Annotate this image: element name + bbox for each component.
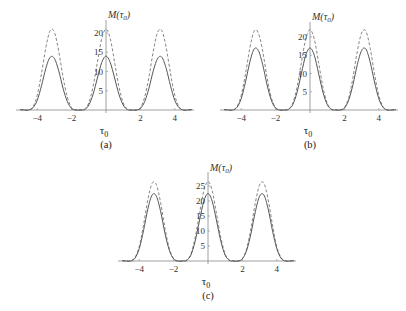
y-tick-labels: 510152025	[196, 181, 206, 251]
panel-c: −4−224 510152025 M(τ0) τ0 (c)	[118, 162, 296, 302]
y-tick-label: 10	[94, 67, 104, 77]
x-tick-label: −4	[134, 264, 144, 274]
y-tick-label: 20	[196, 196, 206, 206]
x-tick-label: −4	[32, 113, 42, 123]
x-tick-label: 4	[377, 113, 382, 123]
y-tick-label: 5	[303, 87, 308, 97]
x-tick-labels: −4−224	[32, 113, 177, 123]
x-tick-label: −4	[236, 113, 246, 123]
x-tick-labels: −4−224	[134, 264, 279, 274]
x-tick-label: 4	[275, 264, 280, 274]
panel-a: −4−224 5101520 M(τ0) τ0 (a)	[16, 9, 194, 151]
x-tick-labels: −4−224	[236, 113, 381, 123]
figure: −4−224 5101520 M(τ0) τ0 (a) −4−224 51015…	[0, 0, 406, 311]
y-tick-label: 10	[298, 69, 308, 79]
y-tick-label: 10	[196, 226, 206, 236]
y-tick-label: 20	[94, 28, 104, 38]
y-tick-label: 15	[298, 50, 308, 60]
x-tick-label: −2	[271, 113, 281, 123]
x-axis-label: τ0	[304, 124, 312, 139]
panel-caption: (c)	[202, 290, 214, 302]
y-tick-label: 20	[298, 32, 308, 42]
x-tick-label: −2	[67, 113, 77, 123]
x-tick-label: −2	[169, 264, 179, 274]
y-tick-label: 25	[196, 181, 206, 191]
y-axis-label: M(τ0)	[107, 9, 131, 22]
y-tick-label: 5	[201, 241, 206, 251]
x-axis-label: τ0	[100, 124, 108, 139]
y-tick-label: 15	[196, 211, 206, 221]
panel-caption: (a)	[100, 139, 112, 151]
y-axis-label: M(τ0)	[209, 162, 233, 175]
x-axis-label: τ0	[202, 275, 210, 290]
x-tick-label: 2	[342, 113, 347, 123]
x-tick-label: 2	[138, 113, 143, 123]
y-axis-label: M(τ0)	[311, 11, 335, 24]
panel-b: −4−224 5101520 M(τ0) τ0 (b)	[220, 11, 398, 151]
panel-caption: (b)	[304, 139, 317, 151]
y-tick-labels: 5101520	[298, 32, 308, 97]
y-tick-label: 15	[94, 47, 104, 57]
y-tick-label: 5	[99, 86, 104, 96]
x-tick-label: 2	[240, 264, 245, 274]
x-tick-label: 4	[173, 113, 178, 123]
